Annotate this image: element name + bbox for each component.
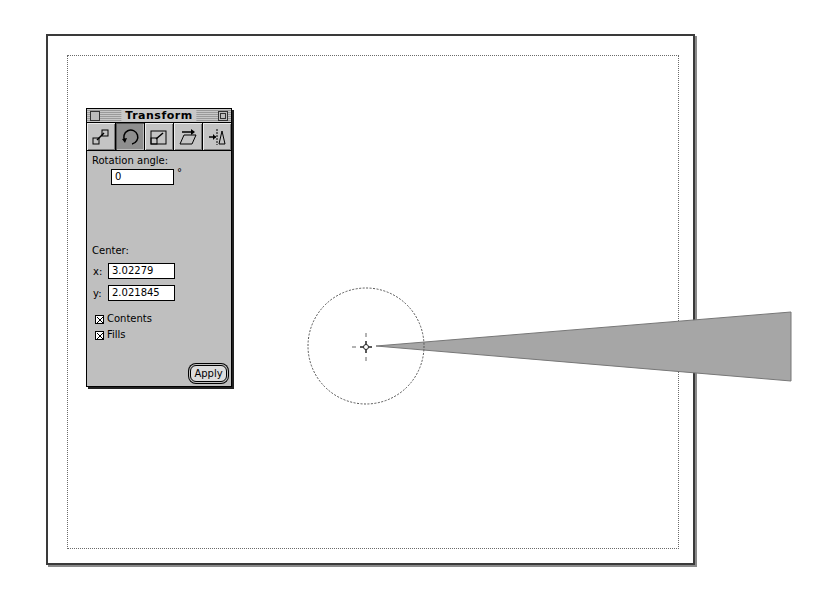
contents-checkbox[interactable] — [95, 315, 104, 324]
tab-skew[interactable] — [174, 123, 203, 150]
center-y-input[interactable]: 2.021845 — [108, 285, 175, 301]
skew-icon — [177, 127, 199, 147]
close-box-icon[interactable] — [90, 111, 100, 121]
center-y-label: y: — [93, 288, 102, 300]
tab-rotate[interactable] — [116, 123, 145, 150]
fills-checkbox[interactable] — [95, 331, 104, 340]
scale-icon — [148, 127, 170, 147]
transform-palette: Transform — [86, 108, 232, 387]
rotation-angle-label: Rotation angle: — [92, 155, 168, 167]
tab-move[interactable] — [87, 123, 116, 150]
transform-tool-tabs — [87, 123, 231, 151]
palette-title: Transform — [121, 109, 196, 122]
rotation-center-crosshair-icon[interactable] — [352, 333, 372, 361]
rotate-icon — [119, 127, 141, 147]
center-x-label: x: — [93, 266, 102, 278]
rotation-angle-input[interactable]: 0 — [111, 169, 174, 185]
center-label: Center: — [92, 245, 129, 257]
tab-reflect[interactable] — [203, 123, 231, 150]
degree-symbol: ° — [177, 167, 182, 179]
palette-title-bar[interactable]: Transform — [87, 109, 231, 123]
zoom-box-icon[interactable] — [218, 111, 228, 121]
wedge-shape[interactable] — [376, 312, 791, 381]
fills-label: Fills — [107, 329, 126, 341]
contents-label: Contents — [107, 313, 152, 325]
center-x-input[interactable]: 3.02279 — [108, 263, 175, 279]
reflect-icon — [206, 127, 228, 147]
tab-scale[interactable] — [145, 123, 174, 150]
move-icon — [90, 127, 112, 147]
apply-button[interactable]: Apply — [190, 365, 227, 382]
